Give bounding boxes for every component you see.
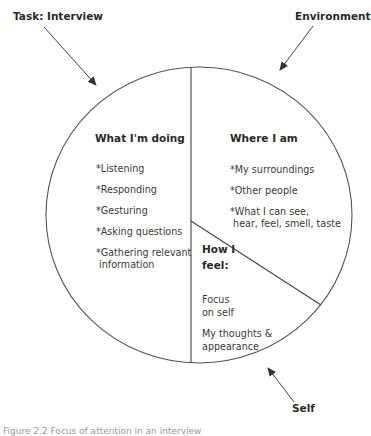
feel-item: on self [202,307,234,319]
feel-item: Focus [202,294,229,306]
where-item: *What I can see, [230,206,309,218]
doing-item: *Gesturing [96,205,148,217]
where-item: *Other people [230,185,298,197]
doing-item: information [96,259,154,271]
doing-title: What I'm doing [95,132,185,144]
doing-item: *Listening [96,163,144,175]
where-title: Where I am [230,132,298,144]
doing-item: *Responding [96,184,157,196]
task-label: Task: Interview [13,10,103,22]
self-arrow-icon [268,368,294,402]
where-item: *My surroundings [230,164,314,176]
task-arrow-icon [44,27,96,85]
feel-title-line2: feel: [202,259,229,271]
self-label: Self [292,402,315,414]
doing-item: *Gathering relevant [96,247,191,259]
feel-item: appearance [202,341,259,353]
where-item: hear, feel, smell, taste [230,218,341,230]
environment-arrow-icon [280,26,313,70]
figure-caption: Figure 2.2 Focus of attention in an inte… [3,426,201,436]
feel-item: My thoughts & [202,328,272,340]
feel-title-line1: How I [202,243,235,255]
environment-label: Environment [295,10,371,22]
doing-item: *Asking questions [96,226,182,238]
